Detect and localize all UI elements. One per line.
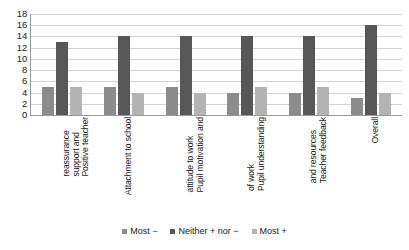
x-axis-label-line: Pupil understanding — [257, 117, 267, 191]
legend-label: Neither + nor − — [178, 227, 238, 236]
x-axis-label: of workPupil understanding — [247, 117, 266, 191]
bar — [118, 36, 130, 115]
x-axis-label-line: Positive teacher — [81, 117, 91, 177]
x-label-cell: Attachment to school — [93, 117, 155, 215]
bar-group — [340, 14, 402, 115]
y-tick-label: 2 — [22, 99, 27, 109]
y-tick-label: 8 — [22, 65, 27, 75]
bar — [56, 42, 68, 115]
y-tick-label: 18 — [17, 9, 27, 19]
bar-group — [216, 14, 278, 115]
bars-layer — [31, 14, 402, 115]
bar-chart: 181614121086420 reassurancesupport andPo… — [0, 0, 409, 250]
bar — [227, 93, 239, 115]
bar — [379, 93, 391, 115]
bar — [104, 87, 116, 115]
x-axis-label: Overall — [371, 117, 381, 144]
x-label-cell: attitude to workPupil motivation and — [155, 117, 217, 215]
x-label-cell: Overall — [340, 117, 402, 215]
legend-label: Most + — [260, 227, 287, 236]
bar — [241, 36, 253, 115]
bar — [132, 93, 144, 115]
bar — [180, 36, 192, 115]
x-label-cell: of workPupil understanding — [216, 117, 278, 215]
bar — [255, 87, 267, 115]
bar — [351, 98, 363, 115]
bar — [166, 87, 178, 115]
x-axis-label: reassurancesupport andPositive teacher — [62, 117, 91, 177]
bar — [317, 87, 329, 115]
legend-item[interactable]: Most − — [122, 227, 157, 236]
bar — [303, 36, 315, 115]
bar-group — [93, 14, 155, 115]
bar-group — [278, 14, 340, 115]
legend-item[interactable]: Neither + nor − — [170, 227, 238, 236]
bar — [365, 25, 377, 115]
y-tick-label: 10 — [17, 54, 27, 64]
bar — [70, 87, 82, 115]
y-tick-label: 4 — [22, 88, 27, 98]
bar — [42, 87, 54, 115]
x-axis-label-line: Attachment to school — [124, 117, 134, 195]
x-axis-category-labels: reassurancesupport andPositive teacherAt… — [31, 117, 402, 215]
x-axis-label-line: Overall — [371, 117, 381, 144]
y-tick-label: 6 — [22, 77, 27, 87]
legend-swatch-icon — [252, 229, 257, 234]
legend-item[interactable]: Most + — [252, 227, 287, 236]
x-label-cell: and resourcesTeacher feedback — [278, 117, 340, 215]
x-label-cell: reassurancesupport andPositive teacher — [31, 117, 93, 215]
x-axis-label: and resourcesTeacher feedback — [309, 117, 328, 183]
y-tick-label: 12 — [17, 43, 27, 53]
x-axis-label-line: Pupil motivation and — [195, 117, 205, 192]
x-axis-label-line: attitude to work — [186, 117, 196, 192]
bar-group — [31, 14, 93, 115]
y-axis-tick-labels: 181614121086420 — [0, 14, 27, 115]
legend-label: Most − — [130, 227, 157, 236]
bar — [289, 93, 301, 115]
y-tick-label: 0 — [22, 110, 27, 120]
chart-legend: Most −Neither + nor −Most + — [0, 223, 409, 239]
x-axis-label: attitude to workPupil motivation and — [186, 117, 205, 192]
legend-swatch-icon — [122, 229, 127, 234]
bar — [194, 93, 206, 115]
legend-swatch-icon — [170, 229, 175, 234]
bar-group — [155, 14, 217, 115]
x-axis-label-line: Teacher feedback — [319, 117, 329, 183]
y-tick-label: 16 — [17, 20, 27, 30]
x-axis-label: Attachment to school — [124, 117, 134, 195]
y-tick-label: 14 — [17, 32, 27, 42]
